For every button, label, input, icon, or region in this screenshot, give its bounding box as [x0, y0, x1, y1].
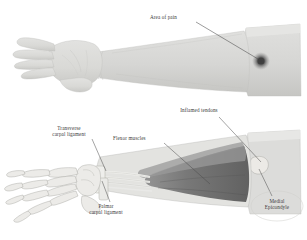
- label-palmar-carpal-ligament-line2: carpal ligament: [70, 209, 142, 215]
- illustration-canvas: Area of pain Inflamed tendons Transverse…: [0, 0, 307, 240]
- label-palmar-carpal-ligament: Palmar carpal ligament: [70, 203, 142, 215]
- label-transverse-carpal-ligament: Transverse carpal ligament: [33, 125, 105, 137]
- label-medial-epicondyle-line2: Epicondyle: [250, 204, 304, 210]
- label-area-of-pain: Area of pain: [150, 14, 177, 20]
- label-transverse-carpal-ligament-line2: carpal ligament: [33, 131, 105, 137]
- label-inflamed-tendons: Inflamed tendons: [165, 107, 233, 113]
- label-flexor-muscles: Flexor muscles: [113, 135, 146, 141]
- label-medial-epicondyle: Medial Epicondyle: [250, 198, 304, 210]
